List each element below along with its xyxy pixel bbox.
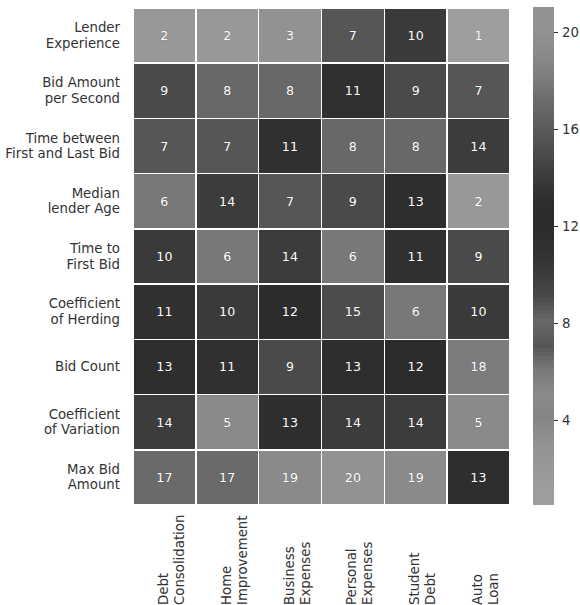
colorbar-tick-label: 20: [562, 26, 579, 39]
column-label: Debt Consolidation: [156, 513, 187, 605]
heatmap-cell-value: 9: [474, 249, 482, 264]
heatmap-cell: 9: [385, 64, 446, 118]
heatmap-cell: 2: [134, 9, 195, 63]
heatmap-cell: 13: [134, 340, 195, 394]
heatmap-cell-value: 8: [412, 139, 420, 154]
heatmap-cell: 5: [448, 395, 509, 449]
colorbar-tick-label: 8: [562, 317, 570, 330]
heatmap-cell-value: 15: [345, 304, 361, 319]
heatmap-cell-value: 14: [156, 415, 172, 430]
heatmap-cell: 11: [322, 64, 383, 118]
heatmap-cell-value: 2: [474, 194, 482, 209]
heatmap-cell-value: 13: [156, 359, 172, 374]
heatmap-cell-value: 11: [219, 359, 235, 374]
heatmap-cell: 7: [322, 9, 383, 63]
heatmap-cell: 6: [197, 230, 258, 284]
heatmap-cell: 12: [385, 340, 446, 394]
colorbar-tickmark: [554, 323, 558, 324]
colorbar-band: [533, 7, 554, 12]
heatmap-cell-value: 8: [286, 83, 294, 98]
heatmap-cell: 17: [134, 451, 195, 505]
heatmap-cell-value: 10: [156, 249, 172, 264]
heatmap-cell-value: 7: [160, 139, 168, 154]
heatmap-cell: 7: [197, 119, 258, 173]
heatmap-cell: 10: [197, 285, 258, 339]
heatmap-cell: 7: [448, 64, 509, 118]
row-label: Bid Count: [0, 359, 120, 375]
heatmap-cell-value: 11: [156, 304, 172, 319]
column-label: Auto Loan: [470, 513, 501, 605]
heatmap-cell-value: 2: [223, 28, 231, 43]
heatmap-cell: 8: [322, 119, 383, 173]
heatmap-cell-value: 7: [223, 139, 231, 154]
colorbar-tick-label: 4: [562, 414, 570, 427]
colorbar-tick-labels: 20161284: [554, 0, 580, 604]
heatmap-cell-value: 6: [349, 249, 357, 264]
heatmap-cell: 19: [385, 451, 446, 505]
heatmap-cell-value: 9: [349, 194, 357, 209]
heatmap-cell: 11: [385, 230, 446, 284]
heatmap-cell: 9: [134, 64, 195, 118]
heatmap-cell-value: 12: [282, 304, 298, 319]
heatmap-cell-value: 5: [223, 415, 231, 430]
heatmap-cell-value: 6: [160, 194, 168, 209]
heatmap-cell: 6: [134, 174, 195, 228]
heatmap-cell-value: 1: [474, 28, 482, 43]
heatmap-cell: 9: [322, 174, 383, 228]
heatmap-cell: 7: [259, 174, 320, 228]
heatmap-cell-value: 2: [160, 28, 168, 43]
heatmap-cell-value: 14: [470, 139, 486, 154]
heatmap-cell-value: 9: [160, 83, 168, 98]
heatmap-cell-value: 6: [412, 304, 420, 319]
heatmap-cell: 8: [259, 64, 320, 118]
heatmap-cell: 14: [385, 395, 446, 449]
heatmap-cell-value: 6: [223, 249, 231, 264]
colorbar-tickmark: [554, 32, 558, 33]
colorbar-tick-label: 12: [562, 220, 579, 233]
heatmap-cell: 11: [134, 285, 195, 339]
heatmap-cell: 13: [322, 340, 383, 394]
heatmap-cell: 19: [259, 451, 320, 505]
heatmap-cell-value: 10: [470, 304, 486, 319]
heatmap-cell: 12: [259, 285, 320, 339]
heatmap-cell: 9: [259, 340, 320, 394]
heatmap-cell: 18: [448, 340, 509, 394]
heatmap-cell: 2: [197, 9, 258, 63]
heatmap-cell: 14: [134, 395, 195, 449]
heatmap-cell-value: 14: [282, 249, 298, 264]
heatmap-cell-value: 13: [345, 359, 361, 374]
heatmap-cell: 8: [385, 119, 446, 173]
heatmap-cell-value: 19: [408, 470, 424, 485]
heatmap-cell-value: 13: [408, 194, 424, 209]
row-label: Coefficient of Variation: [0, 407, 120, 438]
heatmap-cell: 9: [448, 230, 509, 284]
heatmap-cell: 13: [448, 451, 509, 505]
heatmap-cell-value: 17: [219, 470, 235, 485]
heatmap-cell-value: 10: [219, 304, 235, 319]
heatmap-cell-value: 7: [349, 28, 357, 43]
heatmap-cell: 6: [322, 230, 383, 284]
colorbar-tickmark: [554, 129, 558, 130]
heatmap-cell-value: 3: [286, 28, 294, 43]
heatmap-cell-value: 14: [345, 415, 361, 430]
row-label: Max Bid Amount: [0, 462, 120, 493]
heatmap-cell-value: 10: [408, 28, 424, 43]
column-label: Student Debt: [407, 513, 438, 605]
row-label-axis: Lender ExperienceBid Amount per SecondTi…: [0, 8, 126, 505]
column-label: Home Improvement: [219, 513, 250, 605]
heatmap-cell: 7: [134, 119, 195, 173]
colorbar-tickmark: [554, 226, 558, 227]
heatmap-cell-value: 19: [282, 470, 298, 485]
row-label: Time to First Bid: [0, 241, 120, 272]
heatmap-cell-value: 13: [282, 415, 298, 430]
heatmap-cell-value: 9: [412, 83, 420, 98]
heatmap-cell: 11: [259, 119, 320, 173]
heatmap-cell: 10: [385, 9, 446, 63]
heatmap-cell-value: 12: [408, 359, 424, 374]
colorbar-tickmark: [554, 420, 558, 421]
heatmap-cell: 15: [322, 285, 383, 339]
heatmap-cell: 8: [197, 64, 258, 118]
row-label: Median lender Age: [0, 186, 120, 217]
heatmap-cell: 20: [322, 451, 383, 505]
